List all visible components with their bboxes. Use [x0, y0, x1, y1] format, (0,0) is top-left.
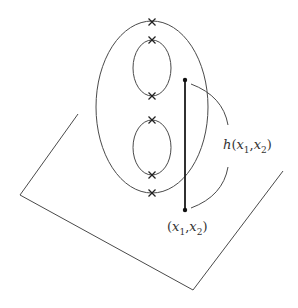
point-var2: x — [189, 219, 196, 234]
brace-upper-arc — [191, 84, 228, 125]
segment-top-dot — [183, 78, 187, 82]
brace-lower-arc — [191, 167, 228, 208]
lower-inner-cycle — [133, 120, 171, 175]
height-var2: x — [254, 137, 261, 152]
segment-bottom-dot — [183, 208, 187, 212]
outer-cycle — [96, 21, 208, 193]
height-close-paren: ) — [267, 137, 272, 152]
marked-points — [149, 19, 156, 197]
height-label: h(x1,x2) — [223, 138, 272, 155]
cross-marker-icon — [149, 19, 156, 26]
height-var1: x — [236, 137, 243, 152]
upper-inner-cycle — [133, 40, 171, 96]
point-label: (x1,x2) — [167, 220, 207, 237]
point-close-paren: ) — [202, 219, 207, 234]
